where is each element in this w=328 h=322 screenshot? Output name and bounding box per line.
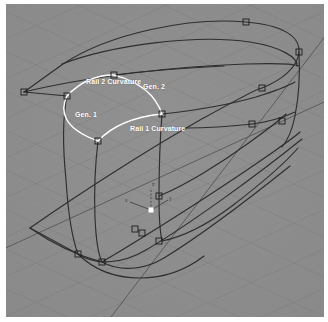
label-rail2-curvature: Rail 2 Curvature: [86, 78, 141, 85]
label-gen1: Gen. 1: [75, 111, 97, 118]
label-gen2: Gen. 2: [143, 83, 165, 90]
grain-overlay: [6, 4, 324, 317]
cad-perspective-viewport[interactable]: z x y Rail 2 Curvature Gen. 2 Gen. 1 Rai…: [0, 0, 328, 322]
viewport-canvas[interactable]: z x y Rail 2 Curvature Gen. 2 Gen. 1 Rai…: [6, 4, 324, 317]
scene-svg: z x y Rail 2 Curvature Gen. 2 Gen. 1 Rai…: [6, 4, 324, 317]
gizmo-origin-point: [149, 208, 154, 213]
label-rail1-curvature: Rail 1 Curvature: [130, 125, 185, 132]
